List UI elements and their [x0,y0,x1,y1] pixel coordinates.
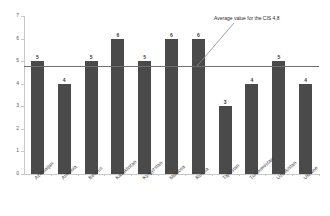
bar-turkmenistan: 4 [245,16,258,174]
bar-rect [299,84,312,174]
y-tick-label: 0 [16,169,19,178]
x-tick-mark [51,174,52,176]
bar-rect [245,84,258,174]
bar-value-label: 4 [245,77,258,83]
y-tick-label: 1 [16,146,19,155]
bar-rect [272,61,285,174]
bar-rect [219,106,232,174]
bar-value-label: 5 [272,54,285,60]
bar-tajikistan: 3 [219,16,232,174]
x-tick-mark [319,174,320,176]
bar-value-label: 6 [165,32,178,38]
average-value-annotation: Average value for the CIS 4,8 [214,15,280,22]
y-tick-label: 4 [16,79,19,88]
bar-rect [165,39,178,174]
bar-ukraine: 4 [299,16,312,174]
average-reference-line [24,66,319,67]
bar-value-label: 4 [58,77,71,83]
bar-kazakhstan: 6 [111,16,124,174]
bar-uzbekistan: 5 [272,16,285,174]
x-tick-mark [158,174,159,176]
bar-value-label: 6 [111,32,124,38]
bar-value-label: 5 [31,54,44,60]
y-tick-label: 5 [16,56,19,65]
x-tick-mark [212,174,213,176]
bar-rect [85,61,98,174]
x-tick-mark [78,174,79,176]
y-tick-mark [21,174,24,175]
bar-belarus: 5 [85,16,98,174]
y-tick-label: 2 [16,124,19,133]
bar-rect [111,39,124,174]
bars-layer: 54565663454 [24,16,319,174]
y-tick-label: 6 [16,34,19,43]
bar-value-label: 6 [192,32,205,38]
bar-value-label: 5 [85,54,98,60]
bar-value-label: 4 [299,77,312,83]
x-tick-mark [131,174,132,176]
bar-azerbaijan: 5 [31,16,44,174]
plot-area: 01234567 54565663454 [24,16,319,174]
bar-rect [192,39,205,174]
x-tick-mark [185,174,186,176]
x-tick-mark [239,174,240,176]
x-tick-mark [265,174,266,176]
bar-rect [31,61,44,174]
x-axis-labels: AzerbaijanArmeniaBelarusKazakhstanKyrgyz… [24,176,319,216]
bar-moldova: 6 [165,16,178,174]
x-tick-mark [104,174,105,176]
y-tick-label: 7 [16,11,19,20]
bar-value-label: 5 [138,54,151,60]
bar-armenia: 4 [58,16,71,174]
bar-russia: 6 [192,16,205,174]
bar-chart: 01234567 54565663454 Average value for t… [0,0,330,216]
y-tick-label: 3 [16,101,19,110]
bar-value-label: 3 [219,99,232,105]
bar-rect [138,61,151,174]
bar-rect [58,84,71,174]
bar-kyrgyzstan: 5 [138,16,151,174]
x-tick-mark [292,174,293,176]
